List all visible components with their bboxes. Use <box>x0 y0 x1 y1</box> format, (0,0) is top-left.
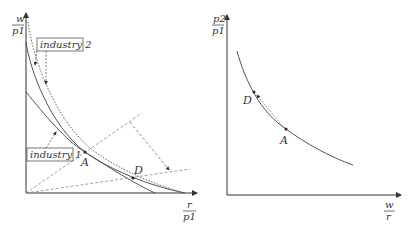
svg-text:p2: p2 <box>213 13 226 24</box>
left-label-A: A <box>80 156 89 169</box>
left-x-axis-label: r p1 <box>183 199 196 222</box>
industry2-label: industry 2 <box>40 39 92 50</box>
right-point-D <box>253 91 256 94</box>
svg-text:w: w <box>16 13 25 24</box>
right-label-A: A <box>279 134 288 147</box>
svg-text:r: r <box>187 199 193 210</box>
rotation-arrow <box>130 122 169 170</box>
right-label-D: D <box>242 94 252 107</box>
industry2-curve <box>26 42 185 193</box>
svg-text:w: w <box>385 199 394 210</box>
svg-text:p1: p1 <box>12 25 25 36</box>
ray-through-D <box>26 169 190 193</box>
right-x-axis-label: w r <box>384 199 395 222</box>
svg-text:p1: p1 <box>183 211 196 222</box>
left-y-axis-label: w p1 <box>12 13 25 36</box>
price-ratio-curve <box>237 51 353 165</box>
left-label-D: D <box>133 164 143 177</box>
left-chart: w p1 r p1 industry 2 industry 1 A <box>12 13 197 222</box>
diagram-canvas: w p1 r p1 industry 2 industry 1 A <box>0 0 410 225</box>
right-point-A <box>285 128 288 131</box>
industry1-label: industry 1 <box>30 149 82 160</box>
right-chart: p2 p1 w r D A <box>212 13 401 222</box>
svg-text:r: r <box>386 211 392 222</box>
industry1-arrow <box>46 132 56 148</box>
left-point-A <box>84 151 87 154</box>
svg-text:p1: p1 <box>212 25 225 36</box>
right-y-axis-label: p2 p1 <box>212 13 226 36</box>
A-to-D-arrow <box>257 95 284 128</box>
